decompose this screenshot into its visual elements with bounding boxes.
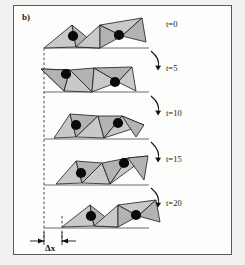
atom-node — [110, 77, 120, 87]
frame-t20 — [44, 200, 160, 228]
atom-node — [114, 30, 124, 40]
arrowhead-left — [38, 239, 44, 244]
time-label-t15: t=15 — [166, 154, 182, 164]
figure-frame: b) — [13, 5, 232, 255]
progression-arrow-2 — [151, 96, 161, 116]
time-label-t20: t=20 — [166, 198, 182, 208]
atom-node — [119, 158, 129, 168]
time-label-t5: t=5 — [166, 63, 177, 73]
arrowhead-right — [62, 239, 68, 244]
atom-node — [68, 31, 78, 41]
diagram-canvas — [14, 6, 233, 256]
delta-x-label: Δx — [45, 243, 55, 253]
atom-node — [86, 211, 96, 221]
atom-node — [76, 168, 86, 178]
atom-node — [71, 120, 81, 130]
atom-node — [61, 69, 71, 79]
figure-root: b) — [0, 0, 245, 265]
time-label-t10: t=10 — [166, 108, 182, 118]
frame-t5 — [41, 67, 149, 92]
progression-arrow-3 — [151, 142, 161, 163]
frame-t15 — [44, 156, 149, 185]
atom-node — [113, 118, 123, 128]
frame-t10 — [44, 114, 149, 139]
time-label-t0: t=0 — [166, 19, 177, 29]
progression-arrow-1 — [151, 51, 161, 71]
atom-node — [131, 210, 141, 220]
frame-t0 — [44, 18, 149, 48]
